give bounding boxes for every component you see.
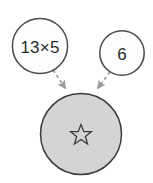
arrow-left-to-result — [53, 70, 66, 89]
diagram-canvas: ☆ 13×5 6 — [0, 0, 153, 183]
operand-left-node: 13×5 — [12, 18, 67, 73]
math-bubble-diagram: ☆ 13×5 6 — [0, 0, 153, 183]
result-circle — [41, 94, 122, 175]
operand-right-label: 6 — [117, 45, 127, 64]
arrow-group — [53, 70, 110, 89]
result-node: ☆ — [41, 94, 122, 175]
arrow-right-to-result — [98, 72, 111, 89]
operand-right-node: 6 — [100, 31, 144, 75]
operand-left-label: 13×5 — [20, 38, 59, 57]
